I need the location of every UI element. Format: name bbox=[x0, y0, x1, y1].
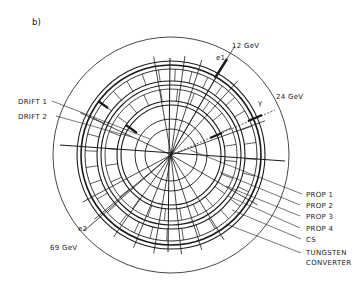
track-label-e1: e1 bbox=[216, 54, 225, 62]
energy-label-12gev: 12 GeV bbox=[232, 42, 259, 50]
label-converter: CONVERTER bbox=[306, 259, 351, 267]
track-label-gamma: γ bbox=[258, 99, 262, 107]
label-prop-3: PROP 3 bbox=[306, 213, 333, 221]
track-gamma bbox=[171, 110, 275, 155]
label-drift-1: DRIFT 1 bbox=[18, 98, 47, 106]
energy-label-69gev: 69 GeV bbox=[50, 244, 77, 252]
detector-cross-section-diagram: b) 12 GeV 24 GeV 69 GeV e1 γ e2 DRIFT 1 … bbox=[0, 0, 364, 292]
label-drift-2: DRIFT 2 bbox=[18, 113, 47, 121]
panel-label: b) bbox=[32, 17, 41, 27]
energy-label-24gev: 24 GeV bbox=[276, 93, 303, 101]
label-tungsten: TUNGSTEN bbox=[305, 249, 347, 257]
label-prop-1: PROP 1 bbox=[306, 191, 333, 199]
label-cs: CS bbox=[306, 236, 316, 244]
label-prop-4: PROP 4 bbox=[306, 225, 334, 233]
label-prop-2: PROP 2 bbox=[306, 202, 333, 210]
track-label-e2: e2 bbox=[78, 225, 87, 233]
